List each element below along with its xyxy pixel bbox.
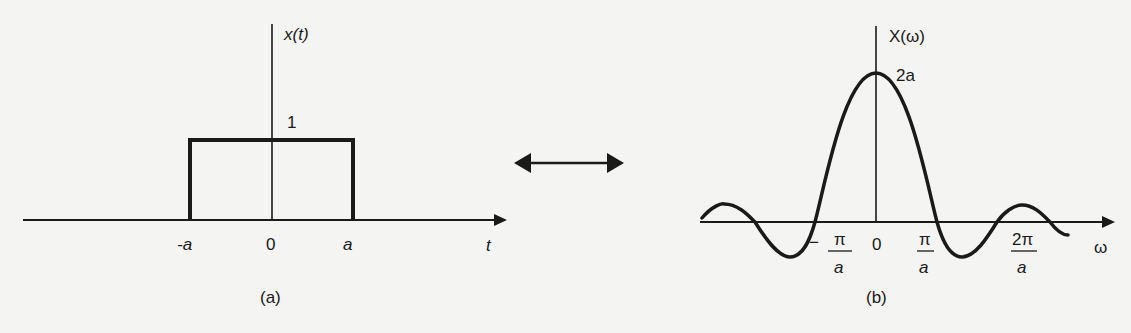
panel-b: X(ω) 2a − π a 0 π a 2π a ω (b) [700, 26, 1115, 307]
tick-pi-over-a: π a [917, 230, 934, 277]
caption-a: (a) [260, 288, 281, 307]
omega-axis-label: ω [1094, 238, 1107, 257]
tick-neg-pi-over-a: − π a [809, 230, 852, 277]
tick-zero: 0 [266, 235, 275, 254]
arrow-left-head-icon [514, 153, 531, 173]
tick-zero-b: 0 [872, 235, 881, 254]
xt-axis-label: x(t) [283, 25, 309, 44]
tick-numerator: 2π [1012, 230, 1033, 249]
tick-denominator: a [919, 258, 928, 277]
t-axis-label: t [486, 236, 492, 255]
tick-denominator: a [1017, 258, 1026, 277]
omega-axis-arrowhead-icon [1102, 216, 1115, 228]
arrow-right-head-icon [607, 153, 624, 173]
tick-sign: − [809, 233, 819, 252]
tick-numerator: π [834, 230, 846, 249]
tick-numerator: π [919, 230, 931, 249]
caption-a-text: (a) [260, 288, 281, 307]
X-omega-axis-label: X(ω) [889, 27, 925, 46]
peak-label: 2a [896, 66, 915, 85]
panel-a: x(t) 1 -a 0 a t (a) [23, 24, 507, 307]
fourier-pair-diagram: x(t) 1 -a 0 a t (a) X(ω) 2a − π a [0, 0, 1131, 333]
tick-2pi-over-a: 2π a [1011, 230, 1037, 277]
level-label: 1 [287, 113, 296, 132]
tick-denominator: a [834, 258, 843, 277]
caption-b: (b) [866, 288, 887, 307]
t-axis-arrowhead-icon [494, 214, 507, 226]
transform-arrow [514, 153, 624, 173]
tick-a: a [343, 235, 352, 254]
tick-neg-a: -a [177, 235, 192, 254]
